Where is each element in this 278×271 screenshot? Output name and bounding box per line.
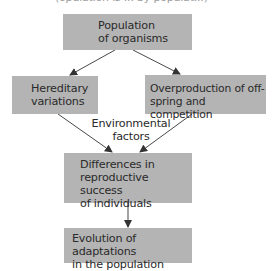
node-text-line: Evolution of adaptations [72,232,192,258]
edge-label-line: Environmental [82,117,180,130]
node-evolution-of-adaptations: Evolution of adaptations in the populati… [64,228,192,263]
node-text-line: of organisms [98,32,192,45]
edge-label-environmental-factors: Environmental factors [82,117,180,143]
node-population-of-organisms: Population of organisms [63,14,192,50]
arrow-population-to-overproduction [133,50,180,74]
arrow-population-to-hereditary [70,50,115,75]
node-text-line: of individuals [80,197,192,210]
node-text-line: Differences in [80,158,192,171]
node-differences-reproductive-success: Differences in reproductive success of i… [64,153,192,203]
node-text-line: Hereditary [31,82,98,95]
cutoff-caption-text: (opulation is ... by populat...) [55,0,208,4]
node-text-line: in the population [72,258,192,271]
node-text-line: reproductive success [80,171,192,197]
node-text-line: Overproduction of off- [150,82,266,95]
edge-label-line: factors [82,130,180,143]
node-text-line: Population [98,19,192,32]
node-overproduction-competition: Overproduction of off- spring and compet… [145,75,266,114]
node-text-line: variations [31,95,98,108]
node-hereditary-variations: Hereditary variations [12,76,98,114]
